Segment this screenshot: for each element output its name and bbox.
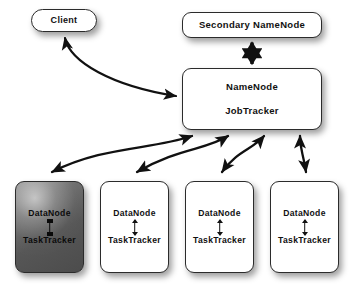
node-datanode-3[interactable]: DataNode TaskTracker (270, 181, 339, 273)
node-datanode-2[interactable]: DataNode TaskTracker (185, 181, 254, 273)
diagram-canvas: Client Secondary NameNode NameNode JobTr… (0, 0, 363, 300)
datanode-0-internal-arrow-icon (49, 219, 50, 236)
datanode-1-internal-arrow-icon (134, 219, 135, 236)
node-secondary-namenode[interactable]: Secondary NameNode (182, 12, 322, 38)
edge-client-to-master (65, 38, 176, 96)
edge-master-to-datanode-2 (222, 136, 264, 172)
node-secondary-namenode-label: Secondary NameNode (199, 20, 305, 30)
node-datanode-3-datanode-label: DataNode (283, 209, 326, 218)
edge-master-to-datanode-3 (300, 136, 306, 172)
node-datanode-2-tasktracker-label: TaskTracker (193, 236, 246, 245)
node-client[interactable]: Client (31, 9, 97, 32)
datanode-2-internal-arrow-icon (219, 219, 220, 236)
edge-master-to-datanode-0 (52, 136, 192, 172)
node-jobtracker-label: JobTracker (225, 106, 279, 116)
node-datanode-1[interactable]: DataNode TaskTracker (100, 181, 169, 273)
node-namenode-jobtracker[interactable]: NameNode JobTracker (182, 68, 322, 130)
node-client-label: Client (51, 16, 78, 26)
edge-master-to-datanode-1 (137, 136, 228, 172)
datanode-3-internal-arrow-icon (304, 219, 305, 236)
node-datanode-0[interactable]: DataNode TaskTracker (15, 181, 84, 273)
node-datanode-3-tasktracker-label: TaskTracker (278, 236, 331, 245)
node-datanode-0-tasktracker-label: TaskTracker (23, 236, 76, 245)
node-datanode-1-datanode-label: DataNode (113, 209, 156, 218)
node-datanode-1-tasktracker-label: TaskTracker (108, 236, 161, 245)
node-datanode-2-datanode-label: DataNode (198, 209, 241, 218)
node-namenode-label: NameNode (226, 82, 278, 92)
node-datanode-0-datanode-label: DataNode (28, 209, 71, 218)
